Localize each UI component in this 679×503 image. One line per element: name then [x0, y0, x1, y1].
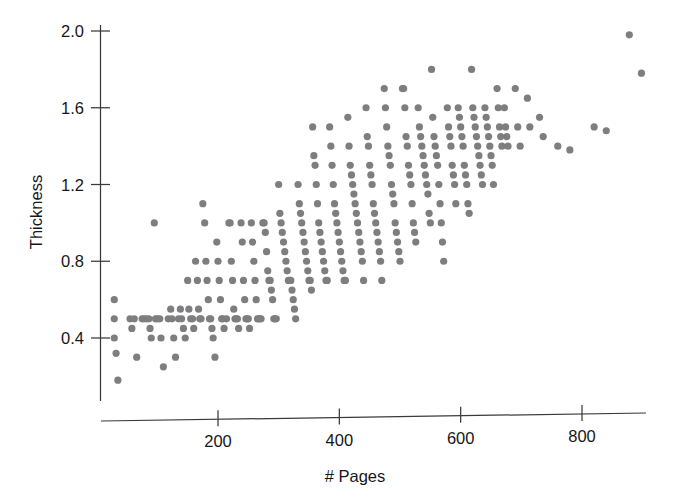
data-point — [131, 315, 138, 322]
data-point — [350, 190, 357, 197]
data-point — [301, 238, 308, 245]
y-tick-label: 1.6 — [61, 99, 84, 117]
data-point — [373, 229, 380, 236]
data-point — [318, 238, 325, 245]
data-point — [461, 162, 468, 169]
data-point — [395, 248, 402, 255]
data-point — [304, 267, 311, 274]
data-point — [332, 210, 339, 217]
data-point — [308, 286, 315, 293]
data-point — [366, 162, 373, 169]
data-point — [354, 219, 361, 226]
data-point — [524, 95, 531, 102]
data-point — [194, 277, 201, 284]
x-axis-ticks: 200400600800 — [204, 405, 596, 450]
data-point — [336, 238, 343, 245]
data-point — [213, 238, 220, 245]
data-point — [504, 143, 511, 150]
data-point — [330, 181, 337, 188]
data-point — [473, 133, 480, 140]
data-point — [185, 306, 192, 313]
data-point — [424, 190, 431, 197]
data-point — [257, 315, 264, 322]
data-point — [439, 238, 446, 245]
data-point — [275, 181, 282, 188]
data-point — [493, 85, 500, 92]
data-point — [228, 258, 235, 265]
x-axis-title: # Pages — [325, 467, 386, 485]
data-point — [432, 143, 439, 150]
data-point — [251, 277, 258, 284]
data-point — [435, 181, 442, 188]
data-point — [148, 334, 155, 341]
data-point — [472, 123, 479, 130]
data-point — [280, 238, 287, 245]
data-point — [207, 315, 214, 322]
data-point — [167, 306, 174, 313]
data-point — [261, 219, 268, 226]
data-point — [347, 162, 354, 169]
data-point — [426, 210, 433, 217]
data-point — [302, 248, 309, 255]
data-point — [433, 152, 440, 159]
data-point — [503, 133, 510, 140]
x-axis-line — [101, 413, 646, 421]
x-tick-label: 200 — [204, 432, 232, 450]
data-point — [246, 325, 253, 332]
data-point — [320, 258, 327, 265]
data-point — [455, 104, 462, 111]
data-point — [287, 277, 294, 284]
data-point — [205, 296, 212, 303]
data-point — [327, 143, 334, 150]
data-point — [240, 277, 247, 284]
y-tick-label: 0.4 — [61, 329, 84, 347]
data-point — [392, 219, 399, 226]
data-point — [230, 306, 237, 313]
x-tick-label: 400 — [326, 431, 354, 449]
data-point — [199, 200, 206, 207]
data-point — [353, 210, 360, 217]
data-point — [378, 277, 385, 284]
data-point — [483, 114, 490, 121]
data-point — [481, 104, 488, 111]
data-point — [303, 258, 310, 265]
data-point — [315, 219, 322, 226]
data-point — [468, 66, 475, 73]
data-point — [263, 248, 270, 255]
data-point — [344, 114, 351, 121]
data-point — [331, 200, 338, 207]
data-point — [290, 296, 297, 303]
data-point — [376, 248, 383, 255]
data-point — [217, 296, 224, 303]
data-point — [405, 162, 412, 169]
data-point — [156, 315, 163, 322]
data-point — [160, 363, 167, 370]
data-point — [490, 181, 497, 188]
data-point — [151, 219, 158, 226]
data-point — [484, 123, 491, 130]
data-point — [526, 123, 533, 130]
data-point — [245, 315, 252, 322]
data-point — [603, 127, 610, 134]
data-point — [276, 210, 283, 217]
data-point — [335, 229, 342, 236]
data-point — [517, 143, 524, 150]
data-point — [128, 325, 135, 332]
x-tick-label: 800 — [568, 427, 596, 445]
data-point — [168, 315, 175, 322]
data-point — [239, 238, 246, 245]
data-point — [456, 114, 463, 121]
data-point — [227, 219, 234, 226]
y-tick-label: 1.2 — [61, 176, 84, 194]
data-point — [182, 334, 189, 341]
data-point — [184, 277, 191, 284]
data-point — [362, 104, 369, 111]
data-point — [387, 162, 394, 169]
data-point — [412, 238, 419, 245]
data-point — [449, 162, 456, 169]
data-point — [364, 133, 371, 140]
data-point — [133, 354, 140, 361]
data-point — [310, 152, 317, 159]
data-point — [211, 354, 218, 361]
data-point — [345, 143, 352, 150]
